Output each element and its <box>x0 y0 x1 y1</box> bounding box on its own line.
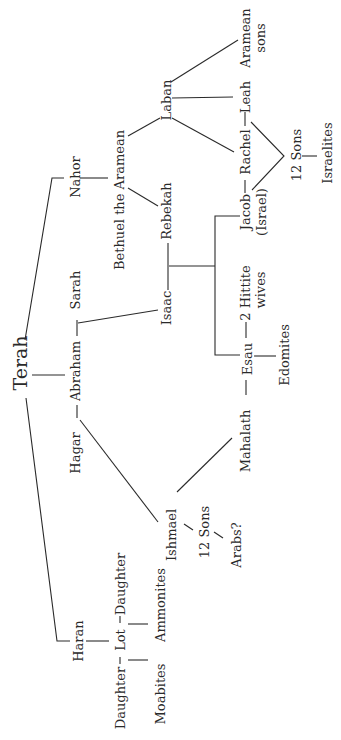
line-laban-leah <box>172 97 233 98</box>
node-daughter-1: Daughter <box>113 666 128 729</box>
line-ishmael-12sons <box>184 524 193 530</box>
node-sarah: Sarah <box>68 270 83 310</box>
node-hittite-wives-line2: wives <box>253 272 268 309</box>
line-laban-aramean-sons <box>171 40 238 82</box>
node-moabites: Moabites <box>153 664 168 725</box>
node-ishmael-12-sons: 12 Sons <box>197 506 212 558</box>
node-bethuel: Bethuel the Aramean <box>112 129 127 270</box>
node-edomites: Edomites <box>277 324 292 386</box>
node-israelites: Israelites <box>320 122 335 183</box>
node-ishmael: Ishmael <box>164 509 179 561</box>
node-israel: (Israel) <box>254 188 269 236</box>
line-bethuel-laban <box>128 118 160 136</box>
node-haran: Haran <box>71 620 86 662</box>
node-abraham: Abraham <box>68 341 83 402</box>
node-jacob-12-sons: 12 Sons <box>289 129 304 181</box>
family-tree-diagram: Terah Nahor Sarah Abraham Hagar Haran Be… <box>0 0 341 740</box>
line-laban-rachel <box>172 118 234 152</box>
node-esau: Esau <box>240 343 255 375</box>
node-isaac: Isaac <box>159 291 174 326</box>
node-aramean-sons: sons <box>253 23 268 53</box>
line-terah-nahor <box>25 178 64 340</box>
line-jacob-wives-12sons <box>251 122 284 190</box>
node-arabs: Arabs? <box>229 522 244 568</box>
line-terah-haran <box>26 398 70 641</box>
node-ammonites: Ammonites <box>153 568 168 643</box>
node-hittite-wives-line1: 2 Hittite <box>238 265 253 321</box>
line-jacob-esau-bracket <box>215 216 240 355</box>
node-labels: Terah Nahor Sarah Abraham Hagar Haran Be… <box>9 8 335 730</box>
line-abrahamhagar-ishmael <box>80 420 158 522</box>
node-aramean: Aramean <box>238 8 253 69</box>
node-terah: Terah <box>9 335 31 390</box>
node-nahor: Nahor <box>68 155 83 197</box>
node-rebekah: Rebekah <box>159 182 174 240</box>
node-leah: Leah <box>238 80 253 113</box>
line-mahalath-ishmael <box>177 438 232 492</box>
line-bethuel-rebekah <box>128 188 158 206</box>
node-lot: Lot <box>113 628 128 650</box>
node-laban: Laban <box>159 79 174 120</box>
node-hagar: Hagar <box>68 432 83 474</box>
node-rachel: Rachel <box>238 129 253 174</box>
node-mahalath: Mahalath <box>238 409 253 472</box>
line-12sons-arabs <box>214 532 223 538</box>
node-daughter-2: Daughter <box>113 552 128 615</box>
line-abrahamsarah-isaac <box>78 310 158 323</box>
node-jacob: Jacob <box>238 194 253 232</box>
